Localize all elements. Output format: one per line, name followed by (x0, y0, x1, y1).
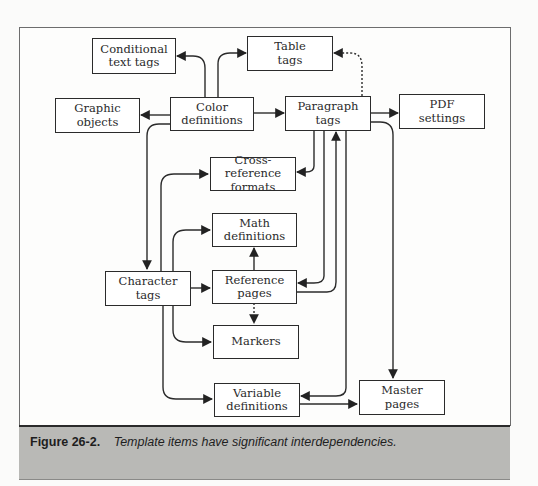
figure-caption: Figure 26-2. Template items have signifi… (30, 435, 397, 449)
node-variable-definitions: Variable definitions (214, 383, 300, 417)
edge-color-to-table (218, 53, 246, 97)
node-color-definitions: Color definitions (170, 97, 254, 131)
edge-character-to-math (173, 230, 210, 271)
edge-paragraph-to-xref (297, 130, 314, 172)
node-master-pages: Master pages (359, 380, 445, 415)
node-pdf-settings: PDF settings (399, 94, 485, 129)
node-table-tags: Table tags (247, 36, 333, 71)
node-reference-pages: Reference pages (212, 270, 297, 304)
edge-character-to-variable (163, 305, 212, 399)
node-cross-reference-formats: Cross-reference formats (210, 157, 296, 191)
edge-paragraph-to-table (334, 53, 362, 96)
node-graphic-objects: Graphic objects (55, 98, 140, 133)
node-character-tags: Character tags (105, 271, 191, 306)
edge-character-to-markers (173, 305, 211, 342)
edge-color-to-conditional (177, 56, 205, 97)
edge-paragraph-to-master (370, 122, 393, 378)
caption-band: Figure 26-2. Template items have signifi… (19, 425, 510, 480)
edge-character-to-xref (161, 174, 208, 271)
caption-label: Figure 26-2. (30, 435, 100, 449)
node-markers: Markers (213, 325, 299, 359)
node-paragraph-tags: Paragraph tags (285, 96, 371, 131)
edge-refpages-to-paragraph (296, 132, 336, 292)
edge-paragraph-to-refpages (298, 130, 324, 283)
caption-text: Template items have significant interdep… (114, 435, 397, 449)
node-math-definitions: Math definitions (212, 213, 297, 247)
edge-color-to-character (147, 124, 170, 269)
node-conditional-text-tags: Conditional text tags (92, 38, 176, 74)
